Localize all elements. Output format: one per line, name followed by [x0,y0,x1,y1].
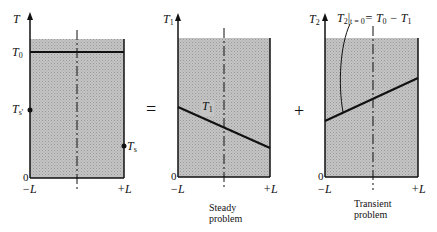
caption-line-1: Transient [354,199,391,209]
shaded-region [325,38,418,177]
y-axis-label: T1 [163,13,174,29]
x-right-label: +L [411,183,426,195]
panel-steady [175,13,270,190]
caption-line-1: Steady [209,203,236,213]
caption-line-2: problem [209,214,242,224]
x-right-label: +L [117,183,132,195]
panel-transient [322,13,418,190]
x-right-label: +L [263,183,278,195]
initial-condition-annotation: T2|t = 0= T0 − T1 [337,12,411,28]
x-left-label: −L [317,183,332,195]
plus-operator: + [294,102,304,120]
left-boundary-point [28,108,33,113]
curve-label: T1 [201,100,214,116]
panel-original [27,12,127,192]
caption-line-2: problem [354,210,387,220]
x-left-label: −L [22,183,37,195]
origin-label: 0 [318,170,324,182]
right-boundary-point [122,144,127,149]
x-left-label: −L [170,183,185,195]
ts-label: Ts [127,140,137,156]
t0-label: T0 [12,46,23,62]
y-axis-label: T2 [309,13,320,29]
ts-prime-label: Ts' [12,103,23,119]
y-axis-arrow-icon [322,13,328,21]
y-axis-label: T [13,13,20,25]
equals-operator: = [146,100,156,118]
y-axis-arrow-icon [27,12,33,20]
origin-label: 0 [171,170,177,182]
y-axis-arrow-icon [175,13,181,21]
